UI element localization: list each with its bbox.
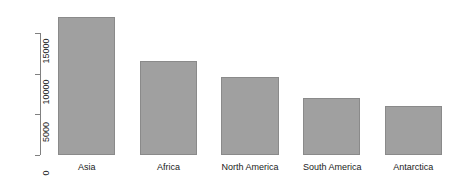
y-tick-mark (35, 33, 40, 34)
y-tick-mark (35, 155, 40, 156)
y-tick-mark (35, 114, 40, 115)
plot-area: AsiaAfricaNorth AmericaSouth AmericaAnta… (46, 0, 454, 189)
y-tick-mark (35, 74, 40, 75)
bar-category-label: North America (221, 162, 278, 172)
bar-category-label: Antarctica (385, 162, 442, 172)
bar (385, 106, 442, 155)
bar (221, 77, 278, 155)
bar (140, 61, 197, 155)
bar (58, 17, 115, 155)
bar-category-label: Africa (140, 162, 197, 172)
bar-chart: 050001000015000 AsiaAfricaNorth AmericaS… (0, 0, 454, 189)
bar (303, 98, 360, 155)
bar-category-label: South America (303, 162, 360, 172)
bar-category-label: Asia (58, 162, 115, 172)
y-axis: 050001000015000 (0, 0, 46, 189)
